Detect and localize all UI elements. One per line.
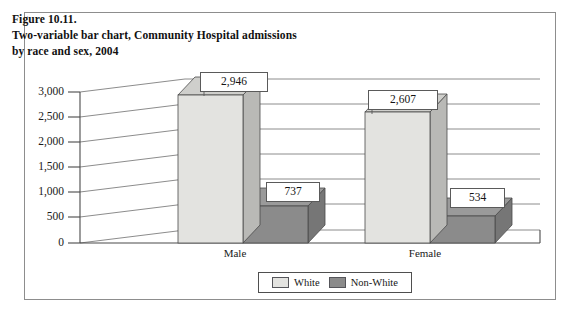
page-title: Two-variable bar chart, Community Hospit… bbox=[12, 27, 482, 59]
y-tick-label-500: 500 bbox=[12, 210, 64, 222]
title-line-2: by race and sex, 2004 bbox=[12, 43, 482, 59]
figure-page: Figure 10.11. Two-variable bar chart, Co… bbox=[0, 0, 577, 315]
data-label-male-nonwhite: 737 bbox=[266, 182, 320, 202]
figure-caption: Figure 10.11. Two-variable bar chart, Co… bbox=[12, 11, 482, 59]
legend-label-white: White bbox=[294, 277, 320, 288]
legend-label-nonwhite: Non-White bbox=[351, 277, 398, 288]
y-tick-label-1000: 1,000 bbox=[12, 185, 64, 197]
x-category-label-female: Female bbox=[385, 247, 465, 259]
legend-item-nonwhite: Non-White bbox=[329, 277, 398, 288]
legend-swatch-nonwhite-icon bbox=[329, 277, 346, 288]
chart-legend: White Non-White bbox=[258, 272, 412, 293]
y-tick-label-0: 0 bbox=[12, 236, 64, 248]
x-category-label-male: Male bbox=[195, 247, 275, 259]
title-line-1: Two-variable bar chart, Community Hospit… bbox=[12, 27, 482, 43]
data-label-female-white: 2,607 bbox=[368, 90, 438, 110]
y-tick-label-2500: 2,500 bbox=[12, 110, 64, 122]
figure-number: Figure 10.11. bbox=[12, 11, 77, 27]
legend-item-white: White bbox=[272, 277, 320, 288]
data-label-female-nonwhite: 534 bbox=[450, 188, 505, 208]
y-tick-label-3000: 3,000 bbox=[12, 85, 64, 97]
y-tick-label-1500: 1,500 bbox=[12, 160, 64, 172]
data-label-male-white: 2,946 bbox=[200, 72, 268, 92]
legend-swatch-white-icon bbox=[272, 277, 289, 288]
y-tick-label-2000: 2,000 bbox=[12, 135, 64, 147]
